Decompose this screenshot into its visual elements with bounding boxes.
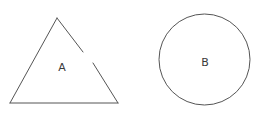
triangle-left-edge <box>10 18 57 103</box>
shapes-svg: Two geometric shapes: an open triangle a… <box>0 0 271 127</box>
shape-triangle-a[interactable]: A <box>10 18 118 103</box>
shape-circle-b[interactable]: B <box>159 14 250 105</box>
triangle-right-edge-lower-segment <box>93 63 118 103</box>
figure-canvas: Two geometric shapes: an open triangle a… <box>0 0 271 127</box>
triangle-right-edge-upper-segment <box>57 18 83 52</box>
triangle-label-a: A <box>58 61 66 74</box>
circle-label-b: B <box>201 56 209 69</box>
